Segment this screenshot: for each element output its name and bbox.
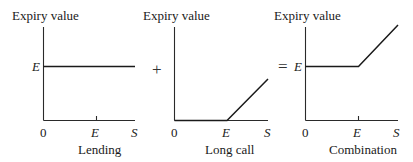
equals-operator: = bbox=[278, 57, 288, 76]
panel-title: Long call bbox=[205, 142, 255, 157]
x-axis-label: S bbox=[264, 125, 271, 140]
payoff-diagram: Expiry value E 0 E S Lending + Expiry va… bbox=[0, 0, 413, 162]
origin-label: 0 bbox=[302, 125, 309, 140]
panel-title: Combination bbox=[329, 142, 397, 157]
x-tick-label: E bbox=[352, 125, 361, 140]
x-tick-label: E bbox=[221, 125, 230, 140]
x-tick-label: E bbox=[90, 125, 99, 140]
panel-combination: Expiry value E 0 E S Combination bbox=[274, 8, 400, 157]
y-tick-label: E bbox=[293, 59, 302, 74]
payoff-line bbox=[306, 25, 399, 67]
x-axis-label: S bbox=[131, 125, 138, 140]
payoff-line bbox=[175, 79, 269, 121]
x-axis-label: S bbox=[393, 125, 400, 140]
plus-operator: + bbox=[152, 60, 162, 79]
y-axis-label: Expiry value bbox=[12, 8, 79, 23]
panel-long-call: Expiry value 0 E S Long call bbox=[143, 8, 271, 157]
y-axis-label: Expiry value bbox=[274, 8, 341, 23]
panel-title: Lending bbox=[78, 142, 122, 157]
origin-label: 0 bbox=[40, 125, 47, 140]
y-axis-label: Expiry value bbox=[143, 8, 210, 23]
y-tick-label: E bbox=[31, 59, 40, 74]
panel-lending: Expiry value E 0 E S Lending bbox=[12, 8, 138, 157]
origin-label: 0 bbox=[171, 125, 178, 140]
